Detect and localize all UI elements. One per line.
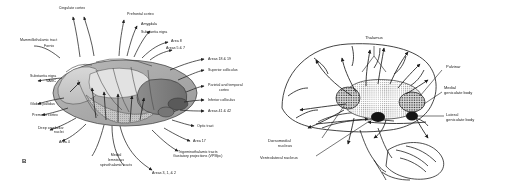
label-amygdala: Amygdala [141, 22, 157, 26]
label-cingulate-cortex: Cingulate cortex [32, 6, 112, 10]
label-area-8: Area 8 [171, 39, 182, 43]
brainstem-and-cerebellum [360, 128, 444, 180]
label-dorsomedial-nucleus-line2: nucleus [278, 144, 292, 149]
connection-arrows-top [73, 17, 172, 60]
panel-letter-b: B [22, 158, 26, 164]
label-optic-tract: Optic tract [197, 124, 214, 128]
label-mammillothalamic-tract: Mammillothalamic tract [20, 38, 57, 42]
thalamus-body [53, 59, 197, 126]
label-parietal-temporal-cortex-line2: cortex [219, 88, 229, 92]
label-ventrolateral-nucleus: Ventrolateral nucleus [260, 156, 298, 161]
label-area-17: Area 17 [193, 139, 206, 143]
label-area-4: Area 4 [59, 140, 70, 144]
label-deep-cerebellar-nuclei-line2: nuclei [54, 130, 64, 134]
label-medial-lemniscus-line1: Medial [88, 153, 144, 157]
label-substantia-nigra-left: Substantia nigra [30, 74, 56, 78]
label-areas-18-19: Areas 18 & 19 [208, 57, 231, 61]
panel-c-thalamus-medial: Thalamus Pulvinar Medial geniculate body… [256, 0, 512, 189]
label-prefrontal-cortex: Prefrontal cortex [127, 12, 154, 16]
panel-c-drawing [256, 0, 512, 189]
label-superior-colliculus: Superior colliculus [208, 68, 238, 72]
label-areas-3-1-2: Areas 3, 1, & 2 [152, 171, 176, 175]
label-premotor-cortex: Premotor cortex [32, 113, 58, 117]
label-globus-pallidus: Globus pallidus [30, 102, 55, 106]
label-vamc: VAMC [46, 79, 56, 83]
anatomy-figure: B Cingulate cortex Prefrontal cortex Amy… [0, 0, 512, 189]
label-thalamus: Thalamus [348, 36, 400, 41]
panel-b-thalamus-dorsal: B Cingulate cortex Prefrontal cortex Amy… [0, 0, 256, 189]
label-pulvinar: Pulvinar [446, 65, 461, 70]
medial-geniculate-body-shape [371, 112, 385, 122]
label-areas-41-42: Areas 41 & 42 [208, 109, 231, 113]
label-spinothalamic-tracts: spinothalamic tracts [80, 163, 152, 167]
label-medial-geniculate-body-line2: geniculate body [444, 91, 472, 96]
label-inferior-colliculus: Inferior colliculus [208, 98, 235, 102]
label-medial-lemniscus-line2: lemniscus [88, 158, 144, 162]
label-lateral-geniculate-body-line2: geniculate body [446, 118, 474, 123]
label-substantia-nigra-top: Substantia nigra [141, 30, 167, 34]
dorsomedial-nucleus-shape [336, 87, 360, 109]
label-fornix: Fornix [44, 44, 54, 48]
label-gustatory-projections: Gustatory projections (VPMpc) [173, 154, 223, 158]
thalamus-mass [336, 80, 425, 122]
label-parietal-temporal-cortex: Parietal and temporal [208, 83, 243, 87]
label-areas-5-7: Areas 5 & 7 [166, 46, 185, 50]
